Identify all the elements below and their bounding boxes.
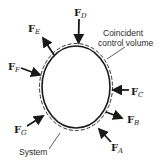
force-arrow-a <box>99 129 111 142</box>
system-leader-line <box>49 133 60 149</box>
force-symbol-e: F <box>28 23 35 34</box>
force-symbol-a: F <box>111 142 118 153</box>
control-volume-boundary <box>40 44 113 131</box>
force-label-c: FC <box>131 86 144 99</box>
force-subscript-c: C <box>138 91 144 99</box>
control-volume-label-line2: control volume <box>98 38 154 48</box>
system-boundary <box>42 46 110 128</box>
force-subscript-d: D <box>80 12 87 20</box>
force-arrow-f <box>21 68 40 75</box>
force-subscript-g: G <box>21 129 27 137</box>
force-label-f: FF <box>8 61 21 74</box>
force-subscript-b: B <box>133 119 139 127</box>
control-volume-leader-line <box>107 47 125 59</box>
force-arrow-d <box>79 19 80 43</box>
force-symbol-c: F <box>131 86 138 97</box>
force-arrow-b <box>106 112 122 118</box>
system-control-volume-diagram: FD FE FF FG FC FB FA Coincident control … <box>0 0 161 163</box>
force-arrow-e <box>43 38 54 55</box>
force-label-e: FE <box>28 23 40 36</box>
system-label: System <box>19 147 47 157</box>
force-subscript-f: F <box>14 66 21 74</box>
force-symbol-f: F <box>8 61 15 72</box>
force-label-a: FA <box>111 142 123 155</box>
force-symbol-d: F <box>74 7 81 18</box>
force-arrow-g <box>27 116 43 126</box>
force-subscript-a: A <box>117 147 123 155</box>
force-label-b: FB <box>127 114 139 127</box>
control-volume-label-line1: Coincident <box>103 28 144 38</box>
force-label-g: FG <box>14 124 27 137</box>
force-symbol-b: F <box>127 114 134 125</box>
force-symbol-g: F <box>14 124 21 135</box>
force-subscript-e: E <box>34 28 40 36</box>
force-label-d: FD <box>74 7 87 20</box>
